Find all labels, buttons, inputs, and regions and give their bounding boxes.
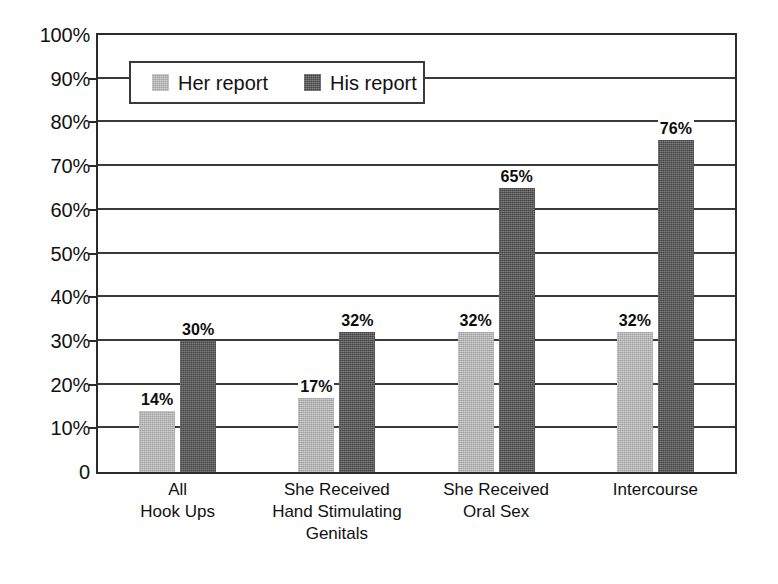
bar-her-report-2: 32%	[458, 332, 494, 472]
y-tick-label-20: 20%	[12, 375, 90, 395]
bar-her-report-0: 14%	[139, 411, 175, 472]
x-axis: AllHook UpsShe ReceivedHand StimulatingG…	[96, 479, 737, 579]
x-category-label-1: She ReceivedHand StimulatingGenitals	[257, 479, 416, 545]
y-tick-label-40: 40%	[12, 287, 90, 307]
y-tick-label-80: 80%	[12, 112, 90, 132]
x-category-label-3: Intercourse	[576, 479, 735, 501]
legend-label: Her report	[178, 73, 268, 93]
x-category-label-0: AllHook Ups	[98, 479, 257, 523]
y-tick-mark-20	[89, 384, 96, 386]
bar-his-report-1: 32%	[339, 332, 375, 472]
y-tick-label-60: 60%	[12, 200, 90, 220]
x-category-label-2: She ReceivedOral Sex	[417, 479, 576, 523]
y-tick-mark-80	[89, 121, 96, 123]
y-tick-mark-40	[89, 296, 96, 298]
bar-value-label: 30%	[180, 321, 216, 338]
y-tick-mark-50	[89, 253, 96, 255]
x-category-line: All	[98, 479, 257, 501]
bar-his-report-3: 76%	[658, 140, 694, 472]
y-tick-mark-10	[89, 427, 96, 429]
y-tick-mark-70	[89, 165, 96, 167]
bar-value-label: 32%	[617, 312, 653, 329]
bar-value-label: 17%	[298, 378, 334, 395]
y-axis: 100%90%80%70%60%50%40%30%20%10%0	[8, 0, 90, 584]
bar-her-report-1: 17%	[298, 398, 334, 472]
y-tick-label-10: 10%	[12, 418, 90, 438]
y-tick-mark-30	[89, 340, 96, 342]
legend-entry-his-report: His report	[304, 73, 417, 93]
x-category-line: Intercourse	[576, 479, 735, 501]
bar-value-label: 76%	[658, 120, 694, 137]
bar-value-label: 14%	[139, 391, 175, 408]
x-category-line: Oral Sex	[417, 501, 576, 523]
bar-value-label: 32%	[458, 312, 494, 329]
chart-legend: Her reportHis report	[129, 61, 425, 104]
y-tick-label-30: 30%	[12, 331, 90, 351]
x-category-line: Genitals	[257, 523, 416, 545]
y-tick-label-90: 90%	[12, 69, 90, 89]
x-category-line: Hand Stimulating	[257, 501, 416, 523]
x-category-line: Hook Ups	[98, 501, 257, 523]
y-tick-label-100: 100%	[12, 25, 90, 45]
bar-value-label: 65%	[499, 168, 535, 185]
bar-his-report-2: 65%	[499, 188, 535, 472]
bar-her-report-3: 32%	[617, 332, 653, 472]
y-tick-label-50: 50%	[12, 244, 90, 264]
legend-swatch-icon	[304, 74, 321, 91]
x-category-line: She Received	[257, 479, 416, 501]
bar-chart: 100%90%80%70%60%50%40%30%20%10%0 14%30%1…	[0, 0, 778, 584]
legend-entry-her-report: Her report	[152, 73, 268, 93]
legend-label: His report	[330, 73, 417, 93]
bar-his-report-0: 30%	[180, 341, 216, 472]
y-tick-mark-60	[89, 209, 96, 211]
plot-area: 14%30%17%32%32%65%32%76% Her reportHis r…	[96, 33, 737, 474]
x-category-line: She Received	[417, 479, 576, 501]
y-tick-mark-90	[89, 78, 96, 80]
legend-swatch-icon	[152, 74, 169, 91]
bar-value-label: 32%	[339, 312, 375, 329]
y-tick-label-70: 70%	[12, 156, 90, 176]
y-tick-label-0: 0	[12, 462, 90, 482]
